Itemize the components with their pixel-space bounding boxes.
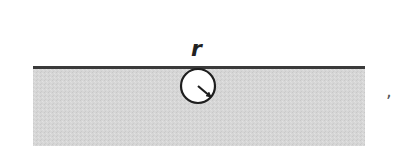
- diagram-canvas: [0, 0, 403, 151]
- radius-label: r: [191, 38, 202, 60]
- bubble-diagram: r ,: [0, 0, 403, 151]
- trailing-comma-mark: ,: [386, 82, 392, 100]
